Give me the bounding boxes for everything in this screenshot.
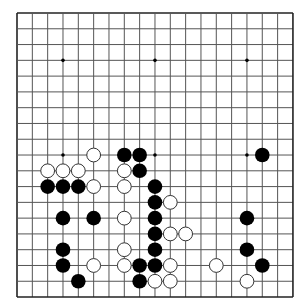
white-stone[interactable] — [87, 148, 101, 162]
black-stone[interactable] — [56, 179, 71, 194]
white-stone[interactable] — [71, 164, 85, 178]
black-stone[interactable] — [56, 211, 71, 226]
white-stone[interactable] — [117, 243, 131, 257]
white-stone[interactable] — [163, 274, 177, 288]
go-board-canvas[interactable] — [0, 0, 301, 308]
black-stone[interactable] — [148, 242, 163, 257]
black-stone[interactable] — [148, 211, 163, 226]
white-stone[interactable] — [240, 274, 254, 288]
black-stone[interactable] — [132, 164, 147, 179]
white-stone[interactable] — [87, 259, 101, 273]
star-point — [61, 153, 65, 157]
star-point — [153, 59, 157, 63]
white-stone[interactable] — [56, 164, 70, 178]
black-stone[interactable] — [56, 242, 71, 257]
star-point — [245, 153, 249, 157]
black-stone[interactable] — [132, 258, 147, 273]
black-stone[interactable] — [148, 258, 163, 273]
black-stone[interactable] — [240, 211, 255, 226]
white-stone[interactable] — [163, 259, 177, 273]
black-stone[interactable] — [40, 179, 55, 194]
white-stone[interactable] — [148, 274, 162, 288]
black-stone[interactable] — [86, 211, 101, 226]
white-stone[interactable] — [41, 164, 55, 178]
white-stone[interactable] — [117, 164, 131, 178]
star-point — [61, 59, 65, 63]
black-stone[interactable] — [71, 179, 86, 194]
white-stone[interactable] — [117, 180, 131, 194]
black-stone[interactable] — [255, 258, 270, 273]
black-stone[interactable] — [148, 195, 163, 210]
white-stone[interactable] — [117, 211, 131, 225]
white-stone[interactable] — [117, 259, 131, 273]
black-stone[interactable] — [240, 242, 255, 257]
black-stone[interactable] — [71, 274, 86, 289]
go-board[interactable] — [0, 0, 301, 308]
black-stone[interactable] — [255, 148, 270, 163]
black-stone[interactable] — [56, 258, 71, 273]
black-stone[interactable] — [117, 148, 132, 163]
black-stone[interactable] — [132, 274, 147, 289]
black-stone[interactable] — [148, 179, 163, 194]
white-stone[interactable] — [163, 195, 177, 209]
white-stone[interactable] — [163, 227, 177, 241]
black-stone[interactable] — [132, 148, 147, 163]
star-point — [153, 153, 157, 157]
white-stone[interactable] — [179, 227, 193, 241]
black-stone[interactable] — [148, 227, 163, 242]
white-stone[interactable] — [209, 259, 223, 273]
white-stone[interactable] — [87, 180, 101, 194]
star-point — [245, 59, 249, 63]
